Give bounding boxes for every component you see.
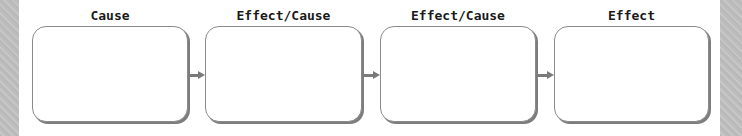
node-label-effect-cause-2: Effect/Cause	[380, 8, 536, 24]
arrow-right-icon	[538, 72, 554, 79]
node-label-cause: Cause	[32, 8, 188, 24]
right-border-strip	[720, 0, 742, 136]
arrow-head	[198, 71, 205, 79]
node-label-effect: Effect	[554, 8, 709, 24]
left-border-strip	[0, 0, 19, 136]
node-box-effect-cause-2[interactable]	[380, 26, 536, 122]
node-box-cause[interactable]	[32, 26, 188, 122]
node-box-effect-cause-1[interactable]	[205, 26, 362, 122]
arrow-right-icon	[190, 72, 205, 79]
node-label-effect-cause-1: Effect/Cause	[205, 8, 362, 24]
node-box-effect[interactable]	[554, 26, 709, 122]
arrow-head	[547, 71, 554, 79]
arrow-right-icon	[364, 72, 380, 79]
arrow-head	[373, 71, 380, 79]
